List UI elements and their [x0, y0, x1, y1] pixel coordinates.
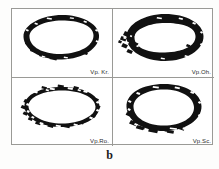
ellipse-drawing-ro: [12, 78, 112, 146]
panel-label-bottom-right: Vp.Sc.: [193, 138, 211, 145]
panel-bottom-left: Vp.Ro.: [12, 78, 112, 146]
panel-top-left: Vp. Kr.: [12, 9, 112, 77]
ellipse-drawing-sc: [113, 78, 214, 146]
panel-top-right: Vp.Oh.: [113, 9, 214, 77]
figure-root: Vp. Kr.: [0, 0, 219, 169]
panel-label-top-left: Vp. Kr.: [90, 69, 109, 76]
panel-label-top-right: Vp.Oh.: [192, 69, 211, 76]
ellipse-drawing-kr: [12, 9, 112, 77]
ellipse-drawing-oh: [113, 9, 214, 77]
figure-caption: b: [0, 148, 219, 162]
panel-grid-frame: Vp. Kr.: [11, 8, 213, 145]
panel-bottom-right: Vp.Sc.: [113, 78, 214, 146]
panel-label-bottom-left: Vp.Ro.: [90, 138, 109, 145]
